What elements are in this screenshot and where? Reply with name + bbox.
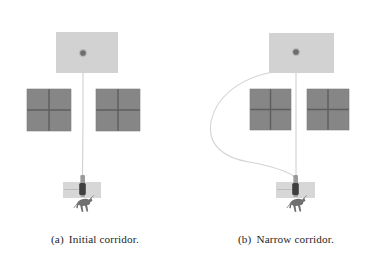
caption-text-b: Narrow corridor. (256, 233, 334, 245)
caption-tag-a: (a) (51, 233, 64, 245)
caption-text-a: Initial corridor. (69, 233, 139, 245)
scene-a-canvas (0, 0, 190, 230)
goal-point-b (293, 49, 300, 56)
scene-b-canvas (191, 0, 381, 230)
robot-body-a (79, 175, 86, 197)
planned-path-a (83, 56, 84, 176)
caption-panel-b: (b) Narrow corridor. (191, 233, 381, 245)
robot-body-b (292, 175, 299, 197)
quadruped-robot-a (74, 196, 93, 212)
figure-root: (a) Initial corridor. (0, 0, 381, 266)
goal-region-a (56, 32, 118, 73)
obstacle-right-b (307, 89, 349, 130)
caption-tag-b: (b) (238, 233, 252, 245)
obstacle-left-a (27, 89, 71, 131)
goal-point-a (80, 50, 87, 57)
goal-region-b (269, 33, 334, 73)
scene-a (0, 0, 190, 230)
figure-panel-a: (a) Initial corridor. (0, 0, 190, 266)
caption-panel-a: (a) Initial corridor. (0, 233, 190, 245)
scene-b (191, 0, 381, 230)
figure-panel-b: (b) Narrow corridor. (191, 0, 381, 266)
obstacle-right-a (96, 89, 140, 131)
quadruped-robot-b (287, 196, 306, 212)
obstacle-left-b (250, 89, 291, 130)
